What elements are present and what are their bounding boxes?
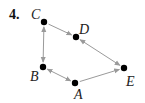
edge-B-A [47,69,70,81]
node-label-B: B [30,69,39,84]
edge-D-E [80,40,120,66]
edge-C-B [43,27,44,62]
node-C [41,19,47,25]
directed-graph: 4. CDBAE [0,0,145,103]
nodes-group: CDBAE [30,7,135,102]
edge-C-D [49,24,72,35]
node-label-C: C [31,7,41,22]
node-A [72,80,78,86]
node-label-D: D [78,22,89,37]
node-B [40,64,46,70]
node-label-A: A [73,87,83,102]
problem-number: 4. [9,7,20,22]
node-label-E: E [125,74,135,89]
node-E [121,65,127,71]
edge-A-E [80,69,119,81]
